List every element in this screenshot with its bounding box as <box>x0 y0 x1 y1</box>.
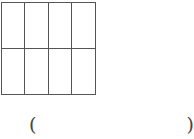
grid-cell <box>2 49 25 95</box>
grid-cell <box>25 49 48 95</box>
grid-cell <box>49 3 72 49</box>
grid-cell <box>72 49 95 95</box>
open-parenthesis: ( <box>29 112 36 136</box>
grid-cell <box>49 49 72 95</box>
grid-cell <box>72 3 95 49</box>
answer-blank[interactable]: ( ) <box>26 112 194 136</box>
close-parenthesis: ) <box>187 112 194 136</box>
divided-square <box>1 2 96 95</box>
grid-cell <box>25 3 48 49</box>
grid-cell <box>2 3 25 49</box>
